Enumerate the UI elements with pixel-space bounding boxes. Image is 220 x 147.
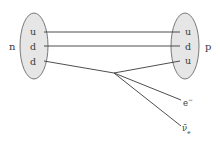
proton-quark-1: u [185,26,191,37]
electron-line [114,73,181,100]
produced-up-quark-line [114,61,180,73]
proton-quark-2: d [185,41,191,52]
neutron-quark-3: d [30,56,36,67]
electron-charge: − [188,96,193,103]
electron-label: e− [183,96,193,108]
proton-label: p [205,41,211,52]
proton-quark-3: u [185,55,191,66]
antineutrino-label: ν̄e [182,123,190,135]
neutron-label: n [9,41,16,52]
antineutrino-flavor: e [187,129,190,135]
beta-decay-diagram: n u d d u d u p e− ν̄e [0,0,220,147]
neutron-quark-1: u [30,26,36,37]
neutron-quark-2: d [30,41,36,52]
decaying-down-quark-line [44,61,114,73]
antineutrino-line [114,73,181,126]
